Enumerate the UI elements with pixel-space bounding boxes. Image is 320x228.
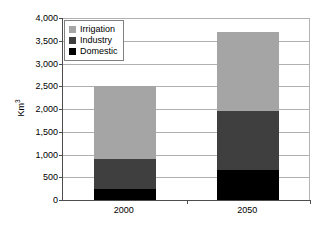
x-axis-tick-mark <box>310 200 311 204</box>
legend-label: Industry <box>80 36 112 45</box>
legend-item: Industry <box>69 35 118 46</box>
legend-item: Irrigation <box>69 24 118 35</box>
legend-swatch-icon <box>69 37 76 44</box>
bar-segment-irrigation <box>217 32 279 112</box>
y-axis-tick-mark <box>59 132 63 133</box>
bar-segment-domestic <box>217 170 279 200</box>
y-axis-tick-label: 1,500 <box>20 127 58 136</box>
y-axis-tick-mark <box>59 155 63 156</box>
y-axis-tick-label: 500 <box>20 173 58 182</box>
y-axis-tick-label: 2,000 <box>20 105 58 114</box>
y-axis-tick-mark <box>59 200 63 201</box>
legend-swatch-icon <box>69 26 76 33</box>
y-axis-tick-mark <box>59 18 63 19</box>
y-axis-tick-label: 2,500 <box>20 82 58 91</box>
legend-item: Domestic <box>69 46 118 57</box>
y-axis-tick-label: 3,000 <box>20 59 58 68</box>
x-axis-tick-label: 2050 <box>207 206 287 215</box>
y-axis-tick-mark <box>59 109 63 110</box>
stacked-bar-chart: Km3 05001,0001,5002,0002,5003,0003,5004,… <box>0 0 320 228</box>
y-axis-tick-labels: 05001,0001,5002,0002,5003,0003,5004,000 <box>20 0 58 228</box>
legend-label: Irrigation <box>80 25 115 34</box>
y-axis-tick-label: 4,000 <box>20 14 58 23</box>
chart-legend: IrrigationIndustryDomestic <box>64 20 124 61</box>
x-axis-tick-mark <box>187 200 188 204</box>
y-axis-tick-label: 3,500 <box>20 36 58 45</box>
y-axis-tick-mark <box>59 41 63 42</box>
y-axis-tick-mark <box>59 177 63 178</box>
bar-segment-domestic <box>94 189 156 200</box>
y-axis-tick-mark <box>59 64 63 65</box>
y-axis-tick-label: 0 <box>20 196 58 205</box>
x-axis-tick-label: 2000 <box>84 206 164 215</box>
y-axis-tick-label: 1,000 <box>20 150 58 159</box>
bar-segment-irrigation <box>94 86 156 159</box>
bar-segment-industry <box>217 111 279 170</box>
y-axis-tick-mark <box>59 86 63 87</box>
bar-stack <box>217 18 279 200</box>
legend-label: Domestic <box>80 47 118 56</box>
bar-segment-industry <box>94 159 156 189</box>
legend-swatch-icon <box>69 48 76 55</box>
